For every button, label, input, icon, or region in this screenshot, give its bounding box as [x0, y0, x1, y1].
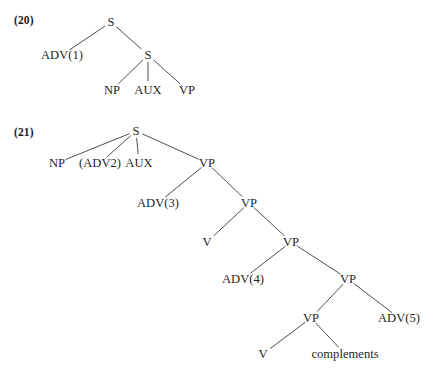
- branch-vp4-to-vp5: [317, 284, 343, 311]
- branch-s-embed-to-np: [118, 60, 143, 84]
- tree-node-s-root: S: [132, 125, 139, 138]
- branch-vp2-to-v1: [214, 208, 244, 236]
- branch-vp4-to-adv5: [354, 283, 392, 312]
- branch-s-root-to-adv2: [107, 136, 131, 157]
- tree-node-adv2: (ADV2): [79, 157, 121, 170]
- tree-node-v1: V: [202, 236, 211, 249]
- tree-node-vp1: VP: [199, 157, 215, 170]
- tree-node-s-embed: S: [144, 49, 151, 62]
- branch-s-root-to-s-embed: [116, 27, 141, 49]
- tree-node-adv3: ADV(3): [137, 197, 179, 210]
- tree-node-vp4: VP: [340, 273, 356, 286]
- syntax-tree-figure: (20)SADV(1)SNPAUXVP(21)SNP(ADV2)AUXVPADV…: [0, 0, 435, 370]
- tree-node-aux: AUX: [134, 84, 161, 97]
- tree-node-adv4: ADV(4): [222, 273, 264, 286]
- tree-node-aux: AUX: [125, 157, 152, 170]
- example-number-2: (21): [14, 126, 34, 138]
- edge-layer: [65, 26, 392, 349]
- branch-vp5-to-v2: [270, 322, 305, 348]
- tree-node-vp: VP: [179, 84, 195, 97]
- tree-node-vp3: VP: [283, 236, 299, 249]
- tree-node-adv1: ADV(1): [41, 49, 83, 62]
- branch-vp2-to-vp3: [254, 208, 284, 236]
- tree-node-s-root: S: [107, 16, 114, 29]
- branch-s-embed-to-vp: [153, 60, 180, 84]
- tree-node-vp2: VP: [241, 197, 257, 210]
- branch-vp1-to-adv3: [165, 167, 202, 197]
- tree-node-adv5: ADV(5): [378, 312, 420, 325]
- tree-node-v2: V: [258, 348, 267, 361]
- branch-vp3-to-adv4: [250, 246, 285, 273]
- branch-vp1-to-vp2: [212, 168, 242, 197]
- tree-node-vp5: VP: [303, 312, 319, 325]
- branch-s-root-to-aux: [137, 138, 139, 154]
- branch-s-root-to-adv1: [69, 26, 105, 50]
- tree-node-np: NP: [104, 84, 120, 97]
- example-number-1: (20): [14, 14, 34, 26]
- tree-node-comps: complements: [311, 348, 378, 361]
- branch-vp5-to-comps: [316, 323, 339, 347]
- tree-node-np: NP: [49, 157, 65, 170]
- branch-vp3-to-vp4: [297, 246, 341, 274]
